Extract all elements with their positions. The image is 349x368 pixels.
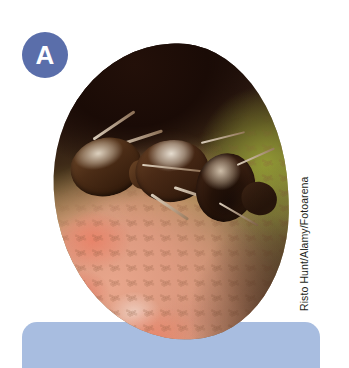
photo-vignette [46,38,295,346]
panel-letter-badge: A [22,32,68,78]
photo-credit: Risto Hunt/Alamy/Fotoarena [296,139,312,311]
figure-photo [46,38,295,346]
figure-photo-content [46,38,295,346]
panel-letter-label: A [36,42,55,68]
